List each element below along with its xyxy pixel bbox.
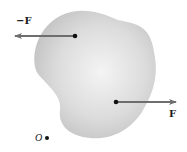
- point-o: O: [35, 132, 49, 143]
- couple-diagram: −F F O: [0, 0, 187, 152]
- force-label-minus-f: −F: [16, 15, 31, 26]
- rigid-body: [34, 11, 156, 138]
- application-point-dot: [73, 34, 78, 39]
- point-o-dot: [45, 136, 49, 140]
- point-label-o: O: [35, 132, 42, 143]
- application-point-dot: [114, 100, 119, 105]
- force-label-f: F: [169, 108, 176, 119]
